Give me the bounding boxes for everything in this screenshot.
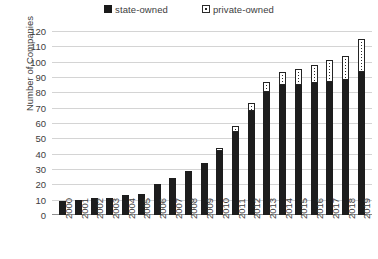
bar-column[interactable] — [86, 31, 102, 215]
bar-segment-state-owned — [326, 82, 333, 215]
open-square-icon — [202, 5, 210, 13]
x-tick-cell: 2001 — [71, 215, 87, 259]
chart-container: state-owned private-owned Number of Comp… — [0, 0, 378, 259]
x-tick-cell: 2017 — [322, 215, 338, 259]
bar-column[interactable] — [149, 31, 165, 215]
y-tick-label: 40 — [20, 148, 46, 159]
bar-column[interactable] — [322, 31, 338, 215]
bar-series-group — [52, 31, 372, 215]
x-tick-cell: 2016 — [306, 215, 322, 259]
bar-column[interactable] — [181, 31, 197, 215]
y-tick-label: 70 — [20, 102, 46, 113]
bar-column[interactable] — [212, 31, 228, 215]
y-tick-label: 20 — [20, 179, 46, 190]
bar-stack — [311, 65, 318, 215]
y-tick-label: 60 — [20, 118, 46, 129]
x-tick-label: 2019 — [361, 198, 372, 219]
legend-item-private-owned[interactable]: private-owned — [202, 4, 274, 15]
bar-stack — [358, 39, 365, 215]
bar-column[interactable] — [165, 31, 181, 215]
chart-legend: state-owned private-owned — [0, 2, 378, 16]
bar-segment-state-owned — [358, 72, 365, 215]
bar-segment-private-owned — [295, 69, 302, 84]
bar-column[interactable] — [118, 31, 134, 215]
y-tick-label: 80 — [20, 87, 46, 98]
bar-stack — [295, 69, 302, 215]
bar-segment-private-owned — [326, 60, 333, 81]
bar-column[interactable] — [243, 31, 259, 215]
bar-column[interactable] — [291, 31, 307, 215]
bar-segment-state-owned — [342, 80, 349, 215]
x-axis-ticks: 2000200120022003200420052006200720082009… — [52, 215, 372, 259]
x-tick-cell: 2002 — [86, 215, 102, 259]
legend-label-state-owned: state-owned — [115, 4, 168, 15]
legend-label-private-owned: private-owned — [213, 4, 274, 15]
bar-segment-state-owned — [263, 92, 270, 215]
x-tick-cell: 2012 — [243, 215, 259, 259]
y-tick-label: 0 — [20, 210, 46, 221]
y-tick-label: 50 — [20, 133, 46, 144]
x-tick-cell: 2015 — [291, 215, 307, 259]
x-tick-cell: 2014 — [275, 215, 291, 259]
x-tick-cell: 2000 — [55, 215, 71, 259]
bar-segment-state-owned — [279, 85, 286, 215]
bar-column[interactable] — [275, 31, 291, 215]
bar-stack — [326, 60, 333, 215]
bar-column[interactable] — [196, 31, 212, 215]
bar-column[interactable] — [71, 31, 87, 215]
y-tick-label: 10 — [20, 194, 46, 205]
bar-column[interactable] — [134, 31, 150, 215]
y-tick-label: 110 — [20, 41, 46, 52]
bar-stack — [279, 72, 286, 215]
bar-segment-private-owned — [248, 103, 255, 111]
bar-segment-private-owned — [311, 65, 318, 83]
x-tick-cell: 2008 — [181, 215, 197, 259]
bar-segment-private-owned — [263, 82, 270, 93]
y-tick-label: 120 — [20, 26, 46, 37]
x-tick-cell: 2013 — [259, 215, 275, 259]
bar-segment-private-owned — [358, 39, 365, 73]
x-tick-cell: 2019 — [353, 215, 369, 259]
bar-column[interactable] — [55, 31, 71, 215]
x-tick-cell: 2004 — [118, 215, 134, 259]
bar-stack — [342, 56, 349, 215]
x-tick-cell: 2003 — [102, 215, 118, 259]
x-tick-cell: 2010 — [212, 215, 228, 259]
x-tick-cell: 2011 — [228, 215, 244, 259]
y-axis-ticks: 1201101009080706050403020100 — [0, 0, 50, 259]
bar-segment-private-owned — [342, 56, 349, 81]
bar-column[interactable] — [228, 31, 244, 215]
filled-square-icon — [104, 5, 112, 13]
y-tick-label: 90 — [20, 72, 46, 83]
bar-stack — [263, 82, 270, 215]
y-tick-label: 100 — [20, 56, 46, 67]
bar-column[interactable] — [338, 31, 354, 215]
bar-segment-state-owned — [311, 83, 318, 215]
bar-column[interactable] — [306, 31, 322, 215]
bar-column[interactable] — [259, 31, 275, 215]
bar-column[interactable] — [102, 31, 118, 215]
legend-item-state-owned[interactable]: state-owned — [104, 4, 168, 15]
x-tick-cell: 2007 — [165, 215, 181, 259]
plot-area — [52, 31, 372, 215]
y-tick-label: 30 — [20, 164, 46, 175]
bar-segment-state-owned — [295, 85, 302, 215]
x-tick-cell: 2018 — [338, 215, 354, 259]
x-tick-cell: 2005 — [134, 215, 150, 259]
bar-column[interactable] — [353, 31, 369, 215]
x-tick-cell: 2006 — [149, 215, 165, 259]
x-tick-cell: 2009 — [196, 215, 212, 259]
bar-segment-private-owned — [279, 72, 286, 84]
